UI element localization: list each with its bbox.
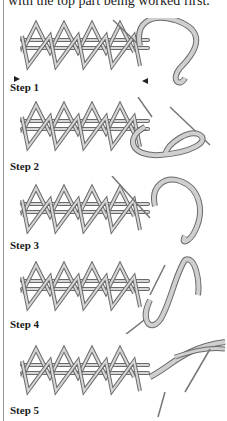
- step-2: Step 2: [0, 97, 227, 176]
- step-4: Step 4: [0, 255, 227, 334]
- step-1-label: Step 1: [10, 81, 39, 93]
- intro-text: with the top part being worked first.: [8, 0, 210, 9]
- step-1: Step 1: [0, 18, 227, 97]
- step-5-label: Step 5: [10, 404, 39, 416]
- step-4-label: Step 4: [10, 318, 39, 330]
- step-2-label: Step 2: [10, 160, 39, 172]
- step-3: Step 3: [0, 176, 227, 255]
- step-5: Step 5: [0, 337, 227, 421]
- step-3-label: Step 3: [10, 239, 39, 251]
